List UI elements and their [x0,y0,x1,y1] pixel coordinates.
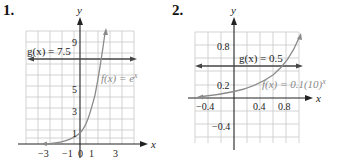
y-tick-0.2: 0.2 [217,80,230,91]
x-tick-0.4: 0.4 [253,101,266,112]
graph-panel-2: 2. x y [172,0,343,163]
y-axis-arrow-2 [231,17,237,25]
y-axis-arrow-1 [77,17,83,25]
f-label-2: f(x) = 0.1(10)x [262,77,326,91]
x-tick-neg1: −1 [62,148,73,159]
x-axis-arrow-1 [140,141,148,147]
y-tick-3: 3 [72,106,77,117]
y-tick-0.8: 0.8 [217,41,230,52]
y-tick-neg0.4: −0.4 [212,121,230,132]
y-axis-label-1: y [76,4,82,16]
graph-2: x y g(x) = 0.5 f(x) = 0.1(10)x 0.8 0.2 −… [172,0,343,163]
y-tick-5: 5 [72,84,77,95]
x-tick-0: 0 [78,148,83,159]
x-tick-0.8: 0.8 [278,101,291,112]
x-tick-3: 3 [113,148,118,159]
y-tick-1: 1 [72,128,77,139]
x-tick-neg0.4: −0.4 [196,101,214,112]
y-axis-label-2: y [230,4,236,16]
x-tick-1: 1 [89,148,94,159]
g-label-2: g(x) = 0.5 [239,52,283,65]
graph-panel-1: 1. [0,0,172,163]
x-axis-label-1: x [150,138,156,150]
f-label-1: f(x) = ex [101,71,138,85]
graph-1: x y g(x) = 7.5 f(x) = ex 9 5 3 1 −3 −1 0… [0,0,172,163]
x-axis-arrow-2 [305,95,313,101]
x-axis-label-2: x [315,92,321,104]
x-tick-neg3: −3 [38,148,49,159]
g-label-1: g(x) = 7.5 [27,45,71,58]
y-tick-9: 9 [72,37,77,48]
